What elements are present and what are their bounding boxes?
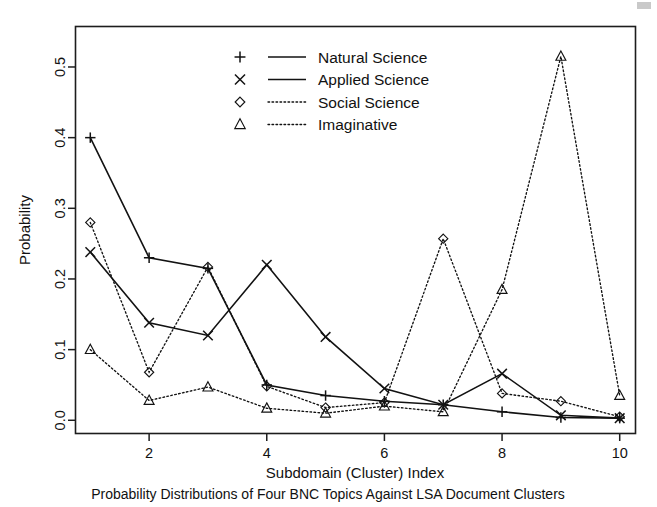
- x-axis-title: Subdomain (Cluster) Index: [266, 464, 445, 481]
- series-natural-science: [85, 132, 625, 423]
- y-tick-label: 0.4: [52, 128, 68, 148]
- x-tick-label: 2: [145, 445, 153, 461]
- legend-label: Applied Science: [318, 71, 429, 88]
- y-tick-label: 0.3: [52, 198, 68, 218]
- diamond-marker: [439, 234, 448, 243]
- cross-marker: [380, 384, 390, 394]
- legend-label: Social Science: [318, 94, 420, 111]
- y-tick-label: 0.5: [52, 57, 68, 77]
- plus-marker: [556, 412, 566, 422]
- diamond-marker: [235, 97, 245, 107]
- triangle-marker: [203, 382, 213, 391]
- triangle-marker: [497, 284, 507, 293]
- legend-item-imaginative: Imaginative: [235, 116, 397, 133]
- legend-item-applied-science: Applied Science: [235, 71, 429, 88]
- y-tick-label: 0.0: [52, 410, 68, 430]
- series-line: [90, 138, 619, 419]
- probability-line-chart: 0.00.10.20.30.40.5 246810 Probability Su…: [0, 0, 657, 507]
- x-axis-ticks: 246810: [145, 434, 628, 462]
- plus-marker: [85, 132, 95, 142]
- cross-marker: [85, 247, 95, 257]
- plus-marker: [144, 253, 154, 263]
- legend-item-natural-science: Natural Science: [235, 49, 428, 66]
- y-tick-label: 0.1: [52, 340, 68, 360]
- legend-label: Natural Science: [318, 49, 427, 66]
- y-axis-title: Probability: [16, 194, 33, 265]
- cross-marker: [262, 260, 272, 270]
- x-tick-label: 10: [612, 445, 628, 461]
- y-tick-label: 0.2: [52, 269, 68, 289]
- series-line: [90, 222, 619, 416]
- x-tick-label: 4: [263, 445, 271, 461]
- cross-marker: [235, 74, 245, 84]
- y-axis-ticks: 0.00.10.20.30.40.5: [52, 57, 75, 430]
- x-tick-label: 6: [380, 445, 388, 461]
- plus-marker: [235, 52, 246, 63]
- chart-legend: Natural ScienceApplied ScienceSocial Sci…: [235, 49, 430, 134]
- triangle-marker: [235, 119, 245, 129]
- legend-item-social-science: Social Science: [235, 94, 420, 111]
- x-tick-label: 8: [498, 445, 506, 461]
- plus-marker: [320, 390, 330, 400]
- series-social-science: [86, 218, 625, 422]
- cross-marker: [321, 332, 331, 342]
- legend-label: Imaginative: [318, 116, 397, 133]
- cross-marker: [497, 369, 507, 379]
- figure-container: 0.00.10.20.30.40.5 246810 Probability Su…: [0, 0, 657, 507]
- figure-caption: Probability Distributions of Four BNC To…: [91, 486, 565, 502]
- plus-marker: [497, 407, 507, 417]
